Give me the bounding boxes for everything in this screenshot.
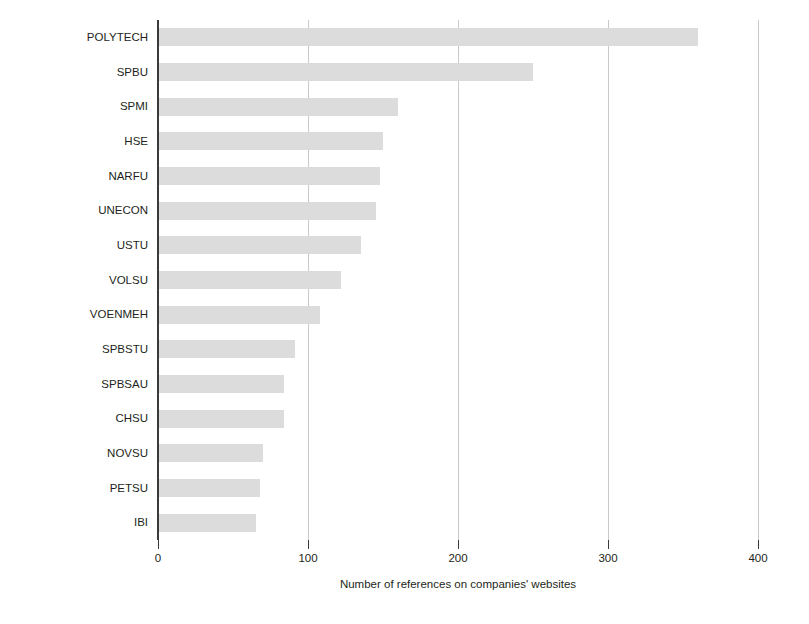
x-axis-tick-mark-200 [458,540,459,549]
bar [158,167,380,185]
y-axis-tick-label: CHSU [8,412,148,425]
bar [158,375,284,393]
x-axis-tick-mark-400 [758,540,759,549]
bar [158,479,260,497]
gridline-300 [608,20,609,540]
bar-chart: University POLYTECHSPBUSPMIHSENARFUUNECO… [0,0,809,624]
y-axis-tick-label: UNECON [8,204,148,217]
y-axis-tick-label: HSE [8,135,148,148]
y-axis-tick-label: SPBU [8,66,148,79]
y-axis-tick-label: USTU [8,239,148,252]
x-axis-tick-label-200: 200 [428,552,488,564]
x-axis-tick-mark-100 [308,540,309,549]
x-axis-tick-mark-0 [158,540,159,549]
x-axis-tick-label-300: 300 [578,552,638,564]
x-axis-tick-label-100: 100 [278,552,338,564]
bar [158,514,256,532]
bar [158,28,698,46]
bar [158,306,320,324]
y-axis-tick-label: VOLSU [8,274,148,287]
plot-area [158,20,758,540]
gridline-200 [458,20,459,540]
x-axis-tick-mark-300 [608,540,609,549]
gridline-400 [758,20,759,540]
y-axis-line [157,20,159,540]
bar [158,63,533,81]
x-axis-tick-label-400: 400 [728,552,788,564]
y-axis-tick-label: SPBSAU [8,378,148,391]
bar [158,444,263,462]
y-axis-tick-label: SPBSTU [8,343,148,356]
y-axis-tick-label: NARFU [8,170,148,183]
bar [158,236,361,254]
y-axis-tick-label: SPMI [8,100,148,113]
y-axis-tick-label: NOVSU [8,447,148,460]
y-axis-tick-label: VOENMEH [8,308,148,321]
y-axis-tick-label: IBI [8,516,148,529]
bar [158,271,341,289]
x-axis-tick-label-0: 0 [128,552,188,564]
x-axis-title: Number of references on companies' websi… [158,578,758,590]
y-axis-tick-label: POLYTECH [8,31,148,44]
bar [158,340,295,358]
y-axis-tick-labels: POLYTECHSPBUSPMIHSENARFUUNECONUSTUVOLSUV… [0,20,148,540]
bar [158,98,398,116]
bar [158,202,376,220]
y-axis-tick-label: PETSU [8,482,148,495]
bar [158,410,284,428]
bar [158,132,383,150]
